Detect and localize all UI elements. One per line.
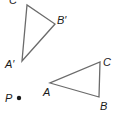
label-a-prime: A′ — [4, 58, 15, 70]
label-b-prime: B′ — [57, 14, 67, 26]
point-p-dot — [17, 96, 21, 100]
label-a: A — [42, 86, 50, 98]
label-b: B — [100, 100, 107, 112]
label-p: P — [5, 92, 13, 104]
triangle-a-prime-b-prime-c-prime — [22, 5, 55, 61]
diagram-canvas: C′ B′ A′ C A B P — [0, 0, 117, 113]
label-c: C — [103, 56, 111, 68]
triangle-abc — [50, 62, 100, 97]
label-c-prime: C′ — [9, 0, 20, 6]
